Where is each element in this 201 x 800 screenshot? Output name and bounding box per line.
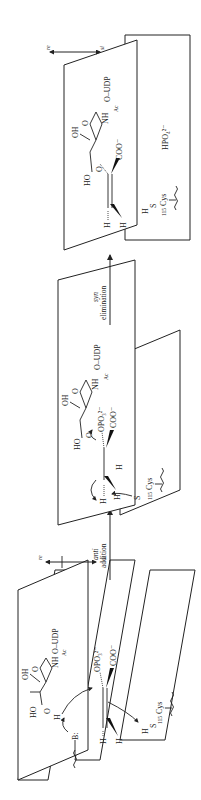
mechanism-figure: re si B: H O HO OH O NH Ac O–UDP H	[0, 0, 201, 800]
svg-text:Cys: Cys	[145, 478, 154, 490]
svg-text:H: H	[53, 714, 62, 720]
phosphate-label: HPO₄²⁻	[161, 125, 170, 150]
svg-text:S: S	[133, 496, 142, 500]
svg-text:NH: NH	[91, 378, 100, 390]
svg-text:O–UDP: O–UDP	[93, 344, 102, 370]
svg-text:OPO₃²⁻: OPO₃²⁻	[97, 407, 106, 432]
svg-text:OH: OH	[71, 126, 80, 138]
plane-back-cys	[120, 570, 195, 740]
arrow-anti-addition: anti addition	[91, 510, 110, 580]
svg-text:elimination: elimination	[99, 286, 108, 320]
stage-2-intermediate: HO O OH O NH Ac O–UDP H H H OPO₃²⁻ COO⁻	[58, 260, 180, 525]
svg-text:OH: OH	[61, 394, 70, 406]
svg-text:O–UDP: O–UDP	[51, 628, 60, 654]
svg-text:Ac: Ac	[103, 373, 109, 380]
svg-text:COO⁻: COO⁻	[109, 645, 118, 666]
svg-text:O: O	[43, 708, 52, 714]
svg-text:si: si	[99, 46, 105, 50]
svg-text:Ac: Ac	[113, 105, 119, 112]
svg-text:COO⁻: COO⁻	[115, 139, 124, 160]
svg-text:HO: HO	[29, 706, 38, 718]
svg-text:O: O	[85, 432, 94, 438]
svg-text:H: H	[141, 728, 150, 734]
re-label: re	[37, 555, 43, 560]
svg-text:O: O	[31, 666, 40, 672]
svg-text:OH: OH	[21, 668, 30, 680]
svg-text:H: H	[119, 222, 128, 228]
svg-text:115: 115	[161, 208, 167, 216]
svg-text:S: S	[149, 204, 158, 208]
svg-text:HO: HO	[83, 174, 92, 186]
face-markers-3: re si	[45, 45, 105, 52]
svg-text:H: H	[115, 738, 124, 744]
svg-text:O–UDP: O–UDP	[103, 76, 112, 102]
svg-text:115: 115	[157, 716, 163, 724]
svg-text:O: O	[71, 388, 80, 394]
svg-text:O: O	[81, 120, 90, 126]
svg-text:H: H	[103, 222, 112, 228]
svg-text:Ac: Ac	[61, 649, 67, 656]
stage-3-product: re si HO O OH O NH Ac O–UDP H H COO⁻ H	[45, 35, 190, 250]
svg-text:COO⁻: COO⁻	[109, 407, 118, 428]
svg-text:OPO₃²⁻: OPO₃²⁻	[93, 647, 102, 672]
svg-text:H: H	[115, 464, 124, 470]
svg-text:115: 115	[147, 492, 153, 500]
svg-text:addition: addition	[99, 543, 108, 568]
svg-text:Cys: Cys	[159, 194, 168, 206]
svg-text:H: H	[99, 738, 108, 744]
svg-text:H: H	[141, 208, 150, 214]
svg-text:B:: B:	[71, 732, 80, 740]
svg-text:H: H	[113, 494, 122, 500]
svg-text:NH: NH	[51, 656, 60, 668]
plane-front-3	[64, 40, 137, 250]
svg-text:re: re	[45, 45, 51, 50]
svg-text:Cys: Cys	[155, 702, 164, 714]
svg-text:NH: NH	[101, 112, 110, 124]
stage-1-initial: re si B: H O HO OH O NH Ac O–UDP H	[18, 555, 195, 780]
svg-text:H: H	[99, 498, 108, 504]
svg-text:S: S	[149, 724, 158, 728]
svg-text:HO: HO	[73, 438, 82, 450]
